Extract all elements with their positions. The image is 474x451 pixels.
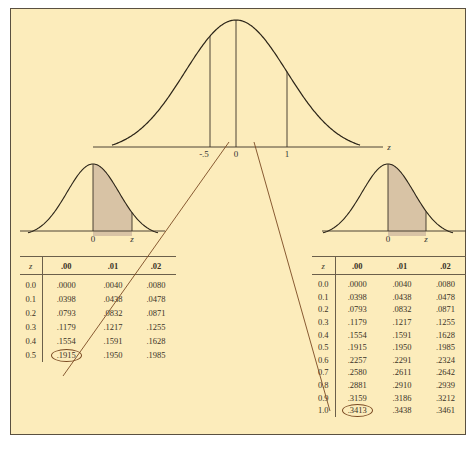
- probability-cell: .0040: [90, 275, 136, 293]
- main-normal-curve: -.5 0 1 z: [93, 20, 391, 159]
- highlighted-value: .3413: [342, 404, 373, 417]
- probability-cell: .3438: [379, 404, 425, 417]
- probability-cell: .1255: [136, 320, 176, 334]
- probability-cell: .2324: [425, 354, 466, 367]
- right-shaded-area: [388, 164, 426, 236]
- z-value-cell: 0.0: [312, 275, 335, 291]
- z-value-cell: 0.8: [312, 379, 335, 392]
- probability-cell: .2611: [379, 366, 425, 379]
- probability-cell: .1179: [335, 316, 379, 329]
- probability-cell: .1591: [379, 328, 425, 341]
- right-tick-z: z: [423, 234, 428, 244]
- probability-cell: .0793: [42, 306, 90, 320]
- probability-cell: .1591: [90, 334, 136, 348]
- probability-cell: .1217: [379, 316, 425, 329]
- probability-cell: .0832: [90, 306, 136, 320]
- header-00: .00: [335, 257, 379, 275]
- probability-cell: .1628: [425, 328, 466, 341]
- header-01: .01: [379, 257, 425, 275]
- table-row: 0.4.1554.1591.1628: [20, 334, 176, 348]
- probability-cell: .0398: [335, 291, 379, 304]
- probability-cell: .0000: [42, 275, 90, 293]
- probability-cell: .0478: [425, 291, 466, 304]
- probability-cell: .1985: [425, 341, 466, 354]
- right-z-table: z .00 .01 .02 0.0.0000.0040.00800.1.0398…: [312, 256, 466, 417]
- probability-cell: .0478: [136, 292, 176, 306]
- probability-cell: .3413: [335, 404, 379, 417]
- probability-cell: .1179: [42, 320, 90, 334]
- probability-cell: .3212: [425, 391, 466, 404]
- probability-cell: .0832: [379, 303, 425, 316]
- axis-label-z: z: [386, 142, 391, 152]
- probability-cell: .0080: [136, 275, 176, 293]
- tick-one: 1: [285, 149, 290, 159]
- z-value-cell: 0.4: [20, 334, 42, 348]
- z-value-cell: 0.1: [20, 292, 42, 306]
- probability-cell: .2291: [379, 354, 425, 367]
- right-normal-curve: 0 z: [322, 164, 466, 244]
- table-row: 1.0.3413.3438.3461: [312, 404, 466, 417]
- tick-minus-half: -.5: [199, 149, 209, 159]
- table-row: 0.9.3159.3186.3212: [312, 391, 466, 404]
- header-01: .01: [90, 257, 136, 275]
- left-normal-curve: 0 z: [20, 164, 165, 244]
- table-row: 0.5.1915.1950.1985: [312, 341, 466, 354]
- right-table-header: z .00 .01 .02: [312, 257, 466, 275]
- probability-cell: .1554: [335, 328, 379, 341]
- table-row: 0.1.0398.0438.0478: [20, 292, 176, 306]
- probability-cell: .2881: [335, 379, 379, 392]
- probability-cell: .0871: [425, 303, 466, 316]
- probability-cell: .1915: [335, 341, 379, 354]
- z-value-cell: 0.3: [20, 320, 42, 334]
- table-row: 0.1.0398.0438.0478: [312, 291, 466, 304]
- left-table-header: z .00 .01 .02: [20, 257, 176, 275]
- right-tick-zero: 0: [386, 234, 391, 244]
- table-row: 0.7.2580.2611.2642: [312, 366, 466, 379]
- z-value-cell: 0.7: [312, 366, 335, 379]
- probability-cell: .1985: [136, 348, 176, 362]
- z-value-cell: 1.0: [312, 404, 335, 417]
- tick-zero: 0: [234, 149, 239, 159]
- header-02: .02: [425, 257, 466, 275]
- z-value-cell: 0.9: [312, 391, 335, 404]
- probability-cell: .1628: [136, 334, 176, 348]
- z-value-cell: 0.2: [312, 303, 335, 316]
- z-value-cell: 0.4: [312, 328, 335, 341]
- probability-cell: .1915: [42, 348, 90, 362]
- probability-cell: .2580: [335, 366, 379, 379]
- left-tick-zero: 0: [91, 234, 96, 244]
- table-row: 0.5.1915.1950.1985: [20, 348, 176, 362]
- table-row: 0.3.1179.1217.1255: [312, 316, 466, 329]
- header-00: .00: [42, 257, 90, 275]
- probability-cell: .1950: [379, 341, 425, 354]
- left-tick-z: z: [129, 234, 134, 244]
- z-value-cell: 0.0: [20, 275, 42, 293]
- table-row: 0.2.0793.0832.0871: [20, 306, 176, 320]
- probability-cell: .2642: [425, 366, 466, 379]
- probability-cell: .1950: [90, 348, 136, 362]
- probability-cell: .0438: [379, 291, 425, 304]
- z-value-cell: 0.5: [312, 341, 335, 354]
- highlighted-value: .1915: [51, 349, 82, 362]
- table-row: 0.0.0000.0040.0080: [312, 275, 466, 291]
- probability-cell: .2257: [335, 354, 379, 367]
- probability-cell: .0871: [136, 306, 176, 320]
- probability-cell: .0040: [379, 275, 425, 291]
- z-value-cell: 0.5: [20, 348, 42, 362]
- left-shaded-area: [93, 164, 132, 236]
- probability-cell: .2910: [379, 379, 425, 392]
- z-value-cell: 0.1: [312, 291, 335, 304]
- probability-cell: .1217: [90, 320, 136, 334]
- probability-cell: .1554: [42, 334, 90, 348]
- probability-cell: .2939: [425, 379, 466, 392]
- table-row: 0.6.2257.2291.2324: [312, 354, 466, 367]
- table-row: 0.2.0793.0832.0871: [312, 303, 466, 316]
- z-value-cell: 0.2: [20, 306, 42, 320]
- probability-cell: .0000: [335, 275, 379, 291]
- probability-cell: .1255: [425, 316, 466, 329]
- probability-cell: .0080: [425, 275, 466, 291]
- probability-cell: .3186: [379, 391, 425, 404]
- probability-cell: .0793: [335, 303, 379, 316]
- header-02: .02: [136, 257, 176, 275]
- z-value-cell: 0.3: [312, 316, 335, 329]
